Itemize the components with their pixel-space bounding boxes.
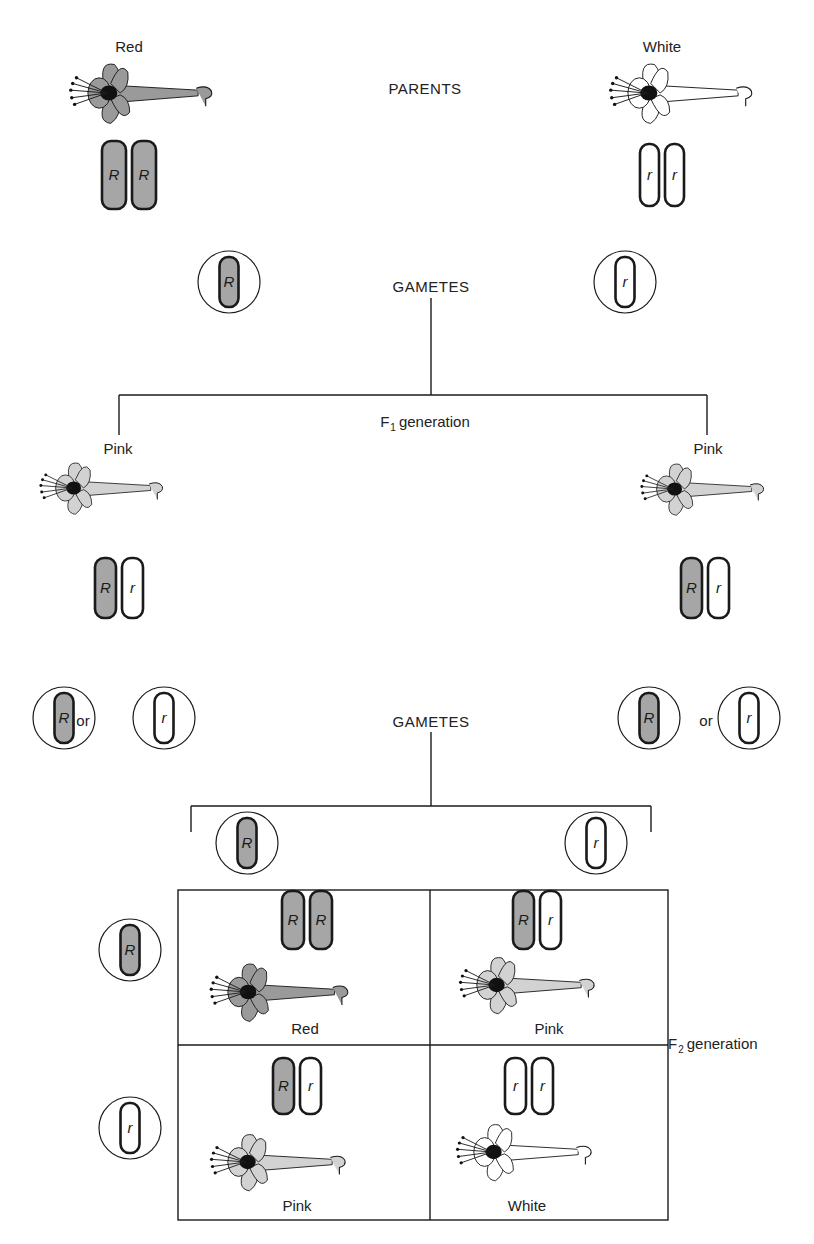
punnett-cell-1-phenotype: Red [291,1020,319,1038]
chromosome: R [132,141,156,209]
f1-left-flower [39,463,162,514]
allele-label: R [109,166,120,183]
f1-gametes-stage-label: GAMETES [393,713,470,731]
chromosome: r [708,558,729,618]
f1-left-phenotype: Pink [103,440,132,458]
allele-label: R [278,1077,289,1094]
allele-label: R [139,166,150,183]
punnett-cell-3-phenotype: Pink [282,1197,311,1215]
chromosome: R [282,891,304,949]
chromosome: R [310,891,332,949]
f2-label-main: F [668,1035,677,1052]
diagram-artwork: RRrrRrRrRrRrRrRrRrRRRrRrrr [0,0,814,1244]
parent-gamete-recessive-chromosome: r [616,257,635,307]
chromosome: r [640,144,659,206]
f2-generation-label: F2generation [668,1035,758,1052]
f2-label-sub: 2 [678,1044,684,1055]
genetics-diagram: RRrrRrRrRrRrRrRrRrRRRrRrrr Red White PAR… [0,0,814,1244]
punnett-row-gamete-R-chromosome: R [121,925,140,975]
allele-label: R [288,911,299,928]
punnett-cell-1-flower [210,964,348,1021]
f1-left-gamete-r-chromosome: r [155,693,174,743]
punnett-column-gamete-r-chromosome: r [587,818,606,868]
f1-right-gamete-R-chromosome: R [640,693,659,743]
allele-label: R [686,579,697,596]
f1-label-sub: 1 [390,422,396,433]
f1-left-or: or [76,712,89,730]
red-parent-flower [69,64,212,123]
chromosome: r [505,1058,526,1114]
f1-right-phenotype: Pink [693,440,722,458]
punnett-cell-2-flower [459,958,594,1014]
f1-label-main: F [380,413,389,430]
f1-label-rest: generation [399,413,470,430]
punnett-row-gamete-r-chromosome: r [121,1103,140,1153]
punnett-cell-4-phenotype: White [508,1197,546,1215]
allele-label: R [224,273,235,290]
f1-generation-label: F1generation [380,413,470,433]
parent-left-phenotype: Red [115,38,143,56]
chromosome: R [273,1058,294,1114]
parent-right-phenotype: White [643,38,681,56]
allele-label: R [316,911,327,928]
allele-label: R [100,579,111,596]
parent-gamete-dominant-chromosome: R [220,257,239,307]
chromosome: r [122,558,143,618]
chromosome: R [681,558,702,618]
f1-right-flower [640,464,763,515]
punnett-cell-2-phenotype: Pink [534,1020,563,1038]
allele-label: R [644,709,655,726]
parents-stage-label: PARENTS [388,80,461,98]
allele-label: R [242,834,253,851]
chromosome: R [95,558,116,618]
punnett-cell-3-flower [210,1135,345,1191]
allele-label: R [518,911,529,928]
chromosome: r [532,1058,553,1114]
chromosome: r [665,144,684,206]
punnett-column-gamete-R-chromosome: R [238,818,257,868]
chromosome: R [513,891,534,949]
allele-label: R [125,941,136,958]
f1-left-gamete-R-chromosome: R [55,693,74,743]
punnett-cell-4-flower [456,1125,591,1181]
f2-label-rest: generation [687,1035,758,1052]
chromosome: R [102,141,126,209]
white-parent-flower [609,64,752,123]
chromosome: r [540,891,561,949]
gametes-stage-label: GAMETES [393,278,470,296]
chromosome: r [300,1058,321,1114]
f1-right-gamete-r-chromosome: r [740,693,759,743]
allele-label: R [59,709,70,726]
f1-right-or: or [699,712,712,730]
